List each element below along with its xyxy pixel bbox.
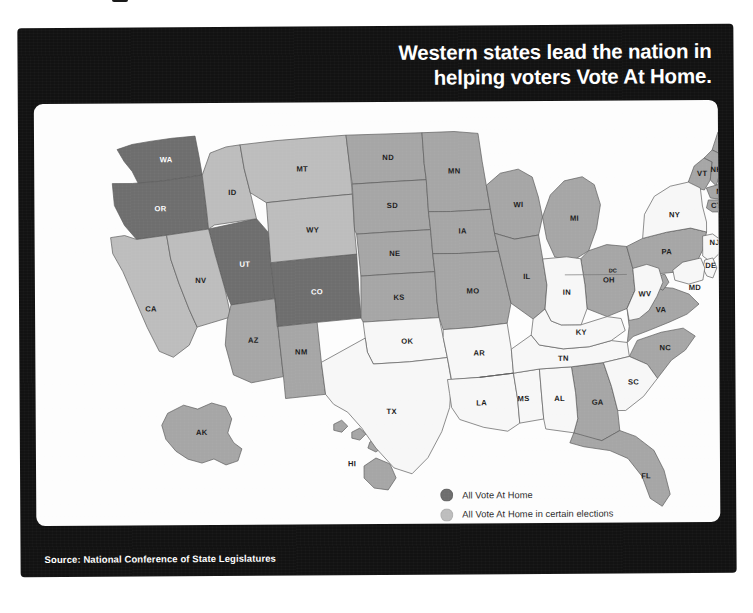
state-label-ma: MA	[716, 187, 720, 196]
poster-page: Western states lead the nation in helpin…	[0, 0, 753, 613]
state-label-mi: MI	[570, 214, 579, 223]
state-label-va: VA	[656, 305, 667, 314]
state-label-ar: AR	[474, 348, 486, 357]
map-panel: WAORUTCOCANVIDMTWYAZNMNDSDNEKSMNIAMOWIIL…	[34, 100, 721, 526]
state-label-id: ID	[228, 188, 236, 197]
state-label-ut: UT	[239, 260, 250, 269]
state-label-fl: FL	[641, 471, 651, 480]
title-line-2: helping voters Vote At Home.	[282, 63, 712, 91]
source-attribution: Source: National Conference of State Leg…	[45, 553, 276, 565]
map-legend: All Vote At Home All Vote At Home in cer…	[440, 484, 710, 526]
title-line-1: Western states lead the nation in	[281, 38, 711, 66]
state-label-pa: PA	[661, 247, 672, 256]
state-label-oh: OH	[603, 276, 615, 285]
state-label-az: AZ	[248, 336, 259, 345]
state-label-ga: GA	[592, 398, 604, 407]
state-label-wa: WA	[160, 155, 173, 164]
state-label-ks: KS	[393, 293, 404, 302]
state-label-nj: NJ	[709, 238, 719, 247]
state-label-tx: TX	[386, 407, 396, 416]
state-label-wv: WV	[639, 289, 653, 298]
state-label-ia: IA	[458, 226, 466, 235]
page-title: Western states lead the nation in helpin…	[281, 38, 711, 91]
legend-swatch-all	[440, 489, 453, 502]
state-label-md: MD	[689, 283, 702, 292]
scan-top-edge	[0, 0, 753, 9]
state-label-or: OR	[154, 204, 166, 213]
state-label-in: IN	[563, 288, 571, 297]
state-label-nc: NC	[659, 343, 671, 352]
legend-item-all[interactable]: All Vote At Home	[440, 484, 710, 505]
state-label-ms: MS	[518, 394, 530, 403]
state-label-la: LA	[476, 398, 487, 407]
state-label-sd: SD	[387, 201, 398, 210]
state-label-ky: KY	[576, 328, 587, 337]
state-label-mo: MO	[466, 286, 479, 295]
state-label-wy: WY	[306, 225, 319, 234]
map-panel-inner: WAORUTCOCANVIDMTWYAZNMNDSDNEKSMNIAMOWIIL…	[34, 100, 721, 526]
state-label-hi: HI	[348, 459, 356, 468]
poster-card: Western states lead the nation in helpin…	[17, 24, 736, 577]
state-label-ny: NY	[669, 210, 680, 219]
state-label-vt: VT	[697, 169, 707, 178]
state-label-nm: NM	[295, 347, 307, 356]
state-label-ct: CT	[711, 201, 720, 210]
state-label-tn: TN	[558, 354, 569, 363]
state-label-nh: NH	[710, 165, 720, 174]
scan-artifact	[112, 0, 128, 2]
state-label-ca: CA	[145, 304, 157, 313]
state-label-sc: SC	[628, 377, 639, 386]
legend-swatch-certain	[440, 508, 453, 521]
state-label-ne: NE	[389, 249, 400, 258]
legend-label-all: All Vote At Home	[462, 490, 533, 500]
state-label-mt: MT	[296, 164, 308, 173]
state-label-nv: NV	[195, 276, 207, 285]
state-label-mn: MN	[448, 166, 460, 175]
legend-label-certain: All Vote At Home in certain elections	[462, 509, 613, 520]
state-label-il: IL	[523, 272, 530, 281]
state-label-de: DE	[705, 261, 716, 270]
us-choropleth-map[interactable]: WAORUTCOCANVIDMTWYAZNMNDSDNEKSMNIAMOWIIL…	[34, 100, 721, 526]
dc-callout-label: DC	[609, 268, 617, 274]
state-shapes-group	[110, 124, 720, 510]
legend-item-certain[interactable]: All Vote At Home in certain elections	[440, 503, 710, 524]
state-label-wi: WI	[513, 200, 523, 209]
state-label-ak: AK	[196, 428, 208, 437]
state-label-al: AL	[554, 394, 565, 403]
state-label-co: CO	[311, 287, 323, 296]
state-label-nd: ND	[382, 153, 394, 162]
legend-item-request[interactable]: Any voter can request an absentee ballot	[440, 523, 710, 526]
state-label-ok: OK	[401, 337, 413, 346]
